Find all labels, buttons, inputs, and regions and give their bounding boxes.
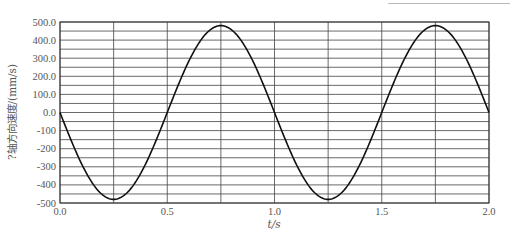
- y-axis-label: ?轴方向速度/(mm/s): [6, 64, 18, 160]
- svg-text:200.0: 200.0: [32, 71, 56, 82]
- x-axis-label: t/s: [267, 218, 281, 230]
- svg-text:400.0: 400.0: [32, 35, 56, 46]
- svg-text:100.0: 100.0: [32, 89, 56, 100]
- svg-text:2.0: 2.0: [482, 206, 495, 217]
- svg-text:0.5: 0.5: [161, 206, 174, 217]
- svg-text:300.0: 300.0: [32, 53, 56, 64]
- svg-text:-400: -400: [37, 179, 56, 190]
- svg-text:-300: -300: [37, 161, 56, 172]
- svg-text:1.5: 1.5: [375, 206, 388, 217]
- svg-text:500.0: 500.0: [32, 17, 56, 28]
- x-axis-ticks: 0.00.51.01.52.0: [53, 206, 495, 217]
- svg-text:-200: -200: [37, 143, 56, 154]
- svg-text:-100: -100: [37, 125, 56, 136]
- y-axis-ticks: 500.0400.0300.0200.0100.00.0-100-200-300…: [32, 17, 56, 209]
- svg-text:0.0: 0.0: [53, 206, 66, 217]
- line-chart: 500.0400.0300.0200.0100.00.0-100-200-300…: [0, 0, 511, 240]
- svg-text:0.0: 0.0: [43, 107, 56, 118]
- svg-text:1.0: 1.0: [268, 206, 281, 217]
